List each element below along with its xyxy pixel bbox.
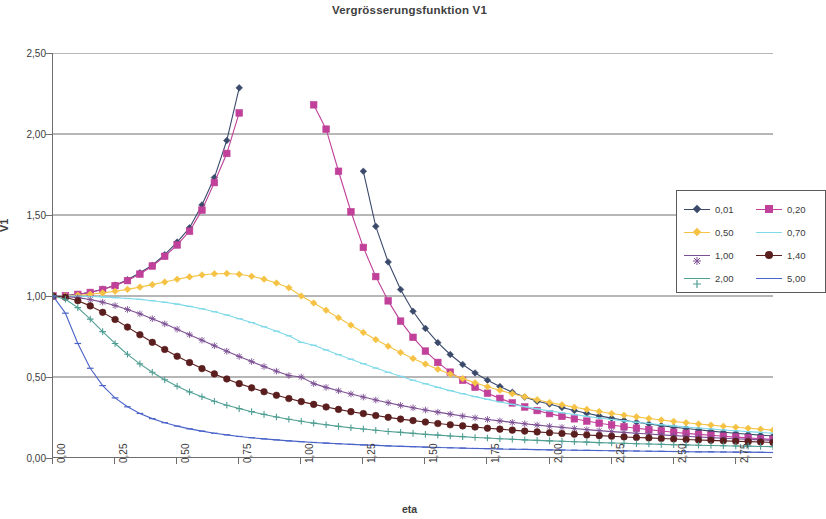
series-marker bbox=[348, 391, 355, 398]
legend-item[interactable]: 0,01 bbox=[677, 204, 749, 215]
series-group bbox=[53, 85, 773, 453]
series-marker bbox=[484, 416, 491, 423]
series-marker bbox=[310, 401, 317, 408]
series-marker bbox=[137, 331, 144, 338]
series-marker bbox=[99, 309, 106, 316]
legend-item[interactable]: 1,40 bbox=[749, 250, 821, 261]
series-marker bbox=[273, 414, 280, 421]
series-marker bbox=[695, 421, 702, 428]
legend-item[interactable]: 0,20 bbox=[749, 204, 821, 215]
x-tick-label: 2,25 bbox=[615, 444, 626, 463]
legend-item[interactable]: 0,70 bbox=[749, 227, 821, 238]
series-marker bbox=[174, 353, 181, 360]
series-marker bbox=[422, 361, 429, 368]
series-marker bbox=[273, 368, 280, 375]
x-tick-mark bbox=[486, 458, 487, 464]
x-tick-label: 2,50 bbox=[677, 444, 688, 463]
series-marker bbox=[509, 436, 516, 443]
legend-marker-circle-icon bbox=[765, 251, 773, 259]
series-marker bbox=[459, 423, 466, 430]
series-marker bbox=[348, 408, 355, 415]
series-marker bbox=[397, 349, 404, 356]
series-marker bbox=[223, 270, 230, 277]
series-marker bbox=[397, 402, 404, 409]
series-marker bbox=[670, 436, 677, 443]
x-tick-label: 1,50 bbox=[428, 444, 439, 463]
series-marker bbox=[174, 276, 181, 283]
x-tick-label: 0,50 bbox=[180, 444, 191, 463]
series-marker bbox=[410, 430, 417, 437]
series-marker bbox=[161, 346, 168, 353]
y-tick-label: 2,50 bbox=[27, 48, 46, 59]
series-marker bbox=[646, 441, 653, 448]
series-marker bbox=[372, 336, 379, 343]
y-tick-mark bbox=[45, 296, 52, 297]
series-marker bbox=[397, 416, 404, 423]
series-marker bbox=[174, 383, 181, 390]
series-marker bbox=[596, 420, 603, 427]
series-marker bbox=[621, 434, 628, 441]
series-marker bbox=[372, 223, 379, 230]
series-marker bbox=[211, 342, 218, 349]
series-marker bbox=[360, 329, 367, 336]
series-marker bbox=[720, 423, 727, 430]
series-marker bbox=[149, 315, 156, 322]
series-marker bbox=[261, 388, 268, 395]
x-tick-label: 0,25 bbox=[118, 444, 129, 463]
series-marker bbox=[248, 273, 255, 280]
y-tick-label: 0,50 bbox=[27, 372, 46, 383]
x-tick-mark bbox=[735, 458, 736, 464]
series-marker bbox=[397, 429, 404, 436]
x-tick-label: 1,25 bbox=[366, 444, 377, 463]
series-marker bbox=[310, 102, 317, 109]
series-marker bbox=[211, 271, 218, 278]
data-series bbox=[53, 102, 773, 443]
series-marker bbox=[484, 390, 491, 397]
series-marker bbox=[447, 411, 454, 418]
series-marker bbox=[273, 280, 280, 287]
series-marker bbox=[248, 408, 255, 415]
series-marker bbox=[186, 359, 193, 366]
series-marker bbox=[459, 413, 466, 420]
series-marker bbox=[435, 359, 442, 366]
legend-label: 0,70 bbox=[787, 227, 806, 238]
series-marker bbox=[410, 404, 417, 411]
plot-area bbox=[52, 53, 772, 458]
series-marker bbox=[385, 343, 392, 350]
x-tick-label: 1,00 bbox=[304, 444, 315, 463]
series-marker bbox=[323, 421, 330, 428]
series-marker bbox=[509, 419, 516, 426]
series-marker bbox=[323, 384, 330, 391]
series-marker bbox=[534, 429, 541, 436]
series-marker bbox=[298, 374, 305, 381]
series-marker bbox=[323, 126, 330, 133]
series-marker bbox=[571, 415, 578, 422]
series-marker bbox=[236, 353, 243, 360]
series-marker bbox=[199, 393, 206, 400]
legend-marker-square-icon bbox=[765, 205, 773, 213]
legend-key-icon bbox=[684, 204, 710, 215]
x-tick-mark bbox=[424, 458, 425, 464]
legend-item[interactable]: 5,00 bbox=[749, 273, 821, 284]
y-tick-mark bbox=[45, 53, 52, 54]
y-axis-title: V1 bbox=[0, 219, 10, 232]
series-marker bbox=[75, 297, 82, 304]
legend-item[interactable]: 2,00 bbox=[677, 273, 749, 284]
legend-label: 2,00 bbox=[715, 273, 734, 284]
legend-item[interactable]: 0,50 bbox=[677, 227, 749, 238]
series-marker bbox=[211, 371, 218, 378]
legend-item[interactable]: 1,00 bbox=[677, 250, 749, 261]
series-marker bbox=[447, 433, 454, 440]
legend-label: 1,40 bbox=[787, 250, 806, 261]
series-marker bbox=[248, 358, 255, 365]
series-marker bbox=[298, 398, 305, 405]
x-tick-label: 1,75 bbox=[490, 444, 501, 463]
series-marker bbox=[261, 276, 268, 283]
series-marker bbox=[124, 286, 131, 293]
series-marker bbox=[546, 423, 553, 430]
series-marker bbox=[484, 377, 491, 384]
series-line bbox=[53, 296, 773, 433]
series-marker bbox=[571, 439, 578, 446]
legend-marker-diamond-icon bbox=[693, 228, 701, 236]
